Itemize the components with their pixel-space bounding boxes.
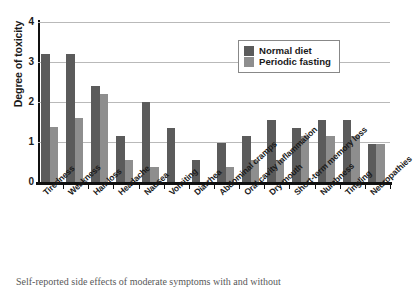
bar-normal-diet [66, 54, 75, 182]
bar-group [142, 22, 159, 182]
y-tick-label-2: 2 [12, 97, 34, 107]
chart-legend: Normal diet Periodic fasting [238, 40, 340, 73]
x-tick [264, 185, 265, 189]
x-tick [139, 185, 140, 189]
y-tick-label-3: 3 [12, 57, 34, 67]
caption-fragment: Self-reported side effects of moderate s… [16, 276, 281, 287]
bar-group [91, 22, 108, 182]
bar-group [66, 22, 83, 182]
x-tick [164, 185, 165, 189]
y-tick-label-4: 4 [12, 17, 34, 27]
legend-item-periodic-fasting: Periodic fasting [244, 57, 331, 67]
legend-swatch-normal-diet [244, 46, 254, 56]
bar-group [217, 22, 234, 182]
x-tick [214, 185, 215, 189]
bar-group [192, 22, 209, 182]
bar-group [343, 22, 360, 182]
y-tick-label-1: 1 [12, 137, 34, 147]
bar-group [368, 22, 385, 182]
legend-label-normal-diet: Normal diet [259, 46, 312, 56]
x-tick [113, 185, 114, 189]
bar-group [41, 22, 58, 182]
x-tick [365, 185, 366, 189]
x-tick [63, 185, 64, 189]
x-tick [340, 185, 341, 189]
y-tick-label-0: 0 [12, 177, 34, 187]
legend-item-normal-diet: Normal diet [244, 46, 331, 56]
x-tick [189, 185, 190, 189]
x-tick [390, 185, 391, 189]
bar-group [167, 22, 184, 182]
x-tick [88, 185, 89, 189]
bar-periodic-fasting [75, 118, 84, 182]
bar-group [116, 22, 133, 182]
x-tick [239, 185, 240, 189]
legend-label-periodic-fasting: Periodic fasting [259, 57, 331, 67]
x-tick [289, 185, 290, 189]
x-tick [315, 185, 316, 189]
bar-normal-diet [41, 54, 50, 182]
legend-swatch-periodic-fasting [244, 57, 254, 67]
